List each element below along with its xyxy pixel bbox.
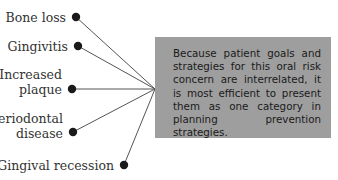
dot-periodontal-disease (69, 128, 77, 136)
connector-bone-loss (76, 17, 155, 89)
label-text: Gingivitis (7, 39, 68, 54)
label-text-line-1: Periodontal (0, 111, 63, 126)
label-text-line-2: disease (0, 126, 63, 141)
connector-periodontal-disease (73, 89, 155, 132)
label-text-line-2: plaque (0, 82, 62, 97)
explanation-box: Because patient goals and strategies for… (155, 37, 331, 138)
label-gingival-recession: Gingival recession (0, 158, 114, 173)
dot-bone-loss (72, 13, 80, 21)
explanation-text: Because patient goals and strategies for… (173, 47, 321, 139)
label-text-line-1: Increased (0, 67, 62, 82)
label-increased-plaque: Increased plaque (0, 67, 62, 97)
dot-increased-plaque (68, 85, 76, 93)
label-bone-loss: Bone loss (6, 10, 67, 25)
connector-gingivitis (78, 46, 155, 89)
connector-gingival-recession (124, 89, 155, 165)
dot-gingivitis (74, 42, 82, 50)
label-periodontal-disease: Periodontal disease (0, 111, 63, 141)
label-gingivitis: Gingivitis (7, 39, 68, 54)
label-text: Bone loss (6, 10, 67, 25)
label-text: Gingival recession (0, 158, 114, 173)
dot-gingival-recession (120, 161, 128, 169)
